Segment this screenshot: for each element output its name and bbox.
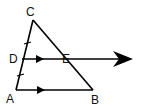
label-a: A: [6, 92, 14, 106]
label-e: E: [62, 52, 70, 66]
label-d: D: [9, 52, 18, 66]
parallel-arrow-ab-icon: [37, 86, 45, 94]
parallel-arrow-de-icon: [36, 55, 44, 63]
triangle-diagram: C D E A B: [0, 0, 143, 109]
segment-ac: [16, 20, 33, 90]
label-c: C: [26, 5, 35, 19]
label-b: B: [91, 93, 99, 107]
